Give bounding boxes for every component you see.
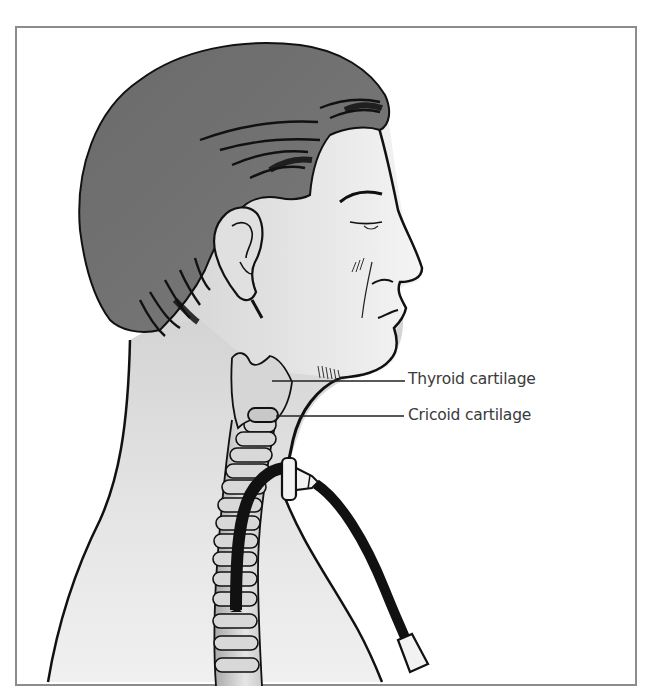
label-thyroid-cartilage: Thyroid cartilage [408,372,536,388]
cricoid-cartilage-shape [248,408,278,422]
label-cricoid-cartilage: Cricoid cartilage [408,408,531,424]
anatomy-illustration [0,0,649,696]
